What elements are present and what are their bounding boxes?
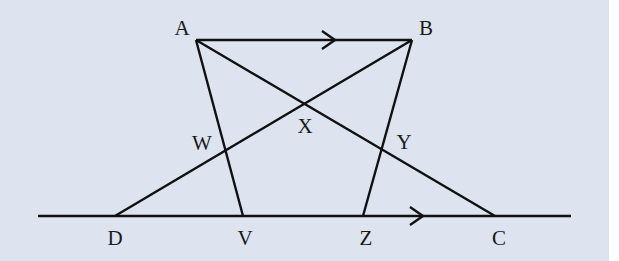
point-label-z: Z bbox=[360, 226, 373, 250]
segment-bd bbox=[115, 40, 412, 216]
point-label-c: C bbox=[492, 226, 506, 250]
point-label-b: B bbox=[419, 16, 433, 40]
point-label-a: A bbox=[174, 16, 190, 40]
segment-ac bbox=[196, 40, 495, 216]
point-label-w: W bbox=[192, 131, 212, 155]
point-label-d: D bbox=[107, 226, 122, 250]
geometry-diagram: A B W X Y D V Z C bbox=[0, 0, 619, 261]
point-label-y: Y bbox=[396, 130, 411, 154]
segment-av bbox=[196, 40, 243, 216]
segment-bz bbox=[363, 40, 412, 216]
point-label-x: X bbox=[297, 114, 312, 138]
point-label-v: V bbox=[237, 226, 252, 250]
